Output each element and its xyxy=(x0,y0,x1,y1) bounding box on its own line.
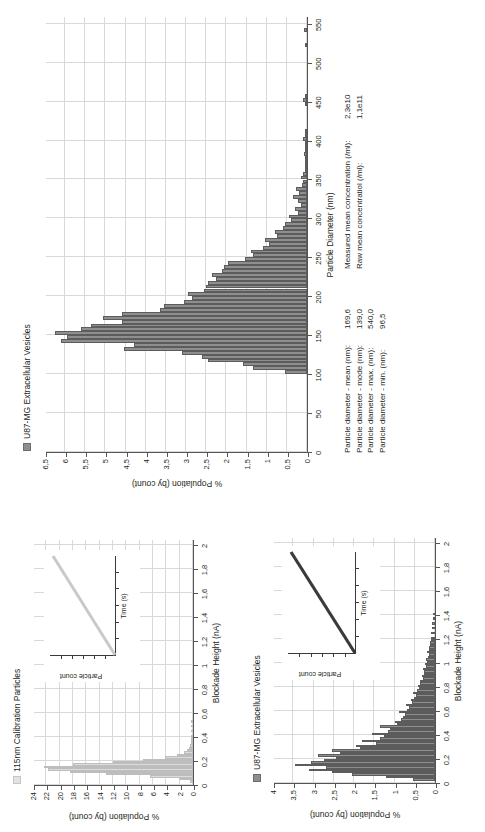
histogram-bar xyxy=(305,144,307,148)
stat-label: Particle diameter - mean (nm): xyxy=(342,329,354,453)
inset-x-tick xyxy=(356,568,359,569)
histogram-bar xyxy=(380,725,435,727)
histogram-bar xyxy=(191,742,193,744)
x-axis-tick xyxy=(194,665,198,666)
histogram-bar xyxy=(304,28,307,32)
histogram-bar xyxy=(265,238,307,242)
inset-x-tick xyxy=(116,588,119,589)
x-axis-tick-label: 250 xyxy=(314,240,323,276)
x-axis-tick-label: 100 xyxy=(314,357,323,393)
y-axis-tick-label: 2 xyxy=(350,790,359,826)
x-axis-tick xyxy=(194,593,198,594)
histogram-bar xyxy=(190,744,193,746)
histogram-bar xyxy=(134,343,307,347)
histogram-bar xyxy=(44,766,193,768)
y-axis-tick-label: 6,5 xyxy=(41,459,50,495)
x-axis-tick xyxy=(194,689,198,690)
histogram-bar xyxy=(189,747,193,749)
y-axis-tick-label: 14 xyxy=(96,792,105,828)
x-axis-tick-label: 300 xyxy=(314,201,323,237)
y-axis-tick xyxy=(227,453,228,457)
x-axis-tick-label: 0 xyxy=(314,435,323,471)
size-distribution-plot xyxy=(46,17,308,453)
histogram-bar xyxy=(91,324,307,328)
histogram-bar xyxy=(420,680,435,682)
histogram-bar xyxy=(395,721,436,723)
particle-diameter-stats: Particle diameter - mean (nm):169,6Parti… xyxy=(342,309,388,453)
x-axis-tick xyxy=(436,759,440,760)
histogram-bar xyxy=(212,273,307,277)
stat-row: Particle diameter - min. (nm):96,5 xyxy=(377,309,389,453)
histogram-bar xyxy=(305,133,307,137)
grid-line-horizontal xyxy=(179,540,180,785)
x-axis-tick xyxy=(308,24,312,25)
histogram-bar xyxy=(165,756,193,758)
histogram-bar xyxy=(411,699,435,701)
x-axis-label: Blockade Height (nA) xyxy=(211,540,221,786)
y-axis-tick-label: 24 xyxy=(29,792,38,828)
y-axis-tick xyxy=(308,453,309,457)
histogram-bar xyxy=(277,234,307,238)
x-axis-tick xyxy=(436,567,440,568)
histogram-bar xyxy=(187,749,193,751)
y-axis-tick xyxy=(147,453,148,457)
histogram-bar xyxy=(386,776,435,778)
histogram-bar xyxy=(303,180,307,184)
y-axis-tick-label: 8 xyxy=(136,792,145,828)
x-axis-tick xyxy=(308,413,312,414)
inset-x-tick xyxy=(356,602,359,603)
histogram-bar xyxy=(429,653,435,655)
grid-line-horizontal xyxy=(64,17,65,452)
x-axis-tick xyxy=(194,545,198,546)
y-axis-tick xyxy=(66,453,67,457)
grid-line-horizontal xyxy=(165,540,166,785)
x-axis-tick xyxy=(436,639,440,640)
stat-label: Particle diameter - mode (nm): xyxy=(354,329,366,453)
histogram-bar xyxy=(412,701,435,703)
histogram-bar xyxy=(301,176,307,180)
histogram-bar xyxy=(224,265,307,269)
x-axis-tick xyxy=(308,63,312,64)
histogram-bar xyxy=(298,211,307,215)
grid-line-horizontal xyxy=(104,17,105,452)
y-axis-tick xyxy=(34,786,35,790)
stat-value: 139,0 xyxy=(355,309,364,329)
histogram-bar xyxy=(356,745,435,747)
histogram-bar xyxy=(164,304,307,308)
histogram-bar xyxy=(208,359,307,363)
histogram-bar xyxy=(285,370,307,374)
histogram-bar xyxy=(311,761,435,763)
histogram-bar xyxy=(419,687,435,689)
histogram-bar xyxy=(423,668,435,670)
histogram-bar xyxy=(376,742,435,744)
inset-y-tick xyxy=(311,654,312,657)
grid-line-horizontal xyxy=(152,540,153,785)
y-axis-tick xyxy=(47,786,48,790)
inset-y-tick xyxy=(72,656,73,659)
grid-line-horizontal xyxy=(145,17,146,452)
histogram-bar xyxy=(150,775,193,777)
grid-line-horizontal xyxy=(246,17,247,452)
stat-label: Particle diameter - min. (nm): xyxy=(377,329,389,453)
histogram-bar xyxy=(407,709,435,711)
histogram-bar xyxy=(251,250,307,254)
histogram-bar xyxy=(204,289,307,293)
y-axis-tick xyxy=(194,786,195,790)
stat-value: 169,6 xyxy=(343,309,352,329)
histogram-bar xyxy=(243,362,307,366)
histogram-bar xyxy=(296,187,307,191)
histogram-bar xyxy=(422,675,435,677)
y-axis-tick-label: 1,5 xyxy=(243,459,252,495)
y-axis-tick xyxy=(74,786,75,790)
histogram-bar xyxy=(67,335,307,339)
histogram-bar xyxy=(429,646,435,648)
y-axis-tick-label: 12 xyxy=(109,792,118,828)
y-axis-tick xyxy=(87,786,88,790)
y-axis-tick-label: 0,5 xyxy=(411,790,420,826)
inset-y-tick xyxy=(94,656,95,659)
histogram-bar xyxy=(124,347,307,351)
inset-x-tick xyxy=(356,585,359,586)
grid-line-horizontal xyxy=(125,17,126,452)
histogram-bar xyxy=(362,740,435,742)
x-axis-tick-label: 350 xyxy=(314,163,323,199)
